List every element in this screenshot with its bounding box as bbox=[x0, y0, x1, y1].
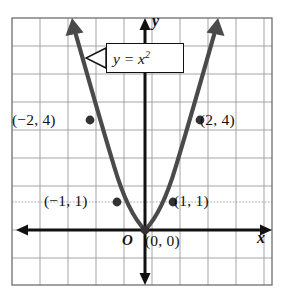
point-neg2-4 bbox=[86, 116, 95, 125]
label-origin-O: O bbox=[122, 233, 133, 248]
label-point-2-4: (2, 4) bbox=[200, 112, 235, 128]
label-axis-y: y bbox=[152, 13, 159, 29]
coordinate-graph-figure: y = x2 (−2, 4) (2, 4) (−1, 1) (1, 1) O (… bbox=[0, 0, 289, 299]
label-point-1-1: (1, 1) bbox=[174, 193, 209, 209]
label-point-neg2-4: (−2, 4) bbox=[12, 112, 56, 128]
label-point-neg1-1: (−1, 1) bbox=[44, 193, 88, 209]
equation-base: y = x bbox=[113, 50, 145, 67]
label-axis-x: x bbox=[257, 230, 265, 246]
label-point-origin: (0, 0) bbox=[145, 233, 180, 249]
point-neg1-1 bbox=[113, 198, 122, 207]
equation-callout-text: y = x2 bbox=[113, 49, 150, 68]
equation-exponent: 2 bbox=[145, 49, 150, 60]
